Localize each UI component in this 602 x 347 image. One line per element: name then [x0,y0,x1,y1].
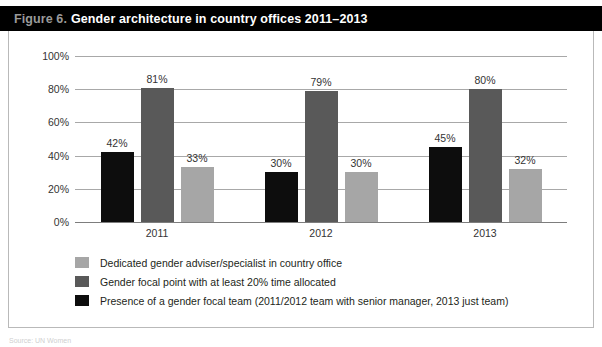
figure-title: Gender architecture in country offices 2… [71,12,368,26]
x-axis-line [75,222,567,223]
legend-swatch-focal-team [75,295,89,306]
bar-group-2013: 45%80%32% [403,56,567,222]
bar-value-label: 33% [186,152,207,164]
legend-item-label: Dedicated gender adviser/specialist in c… [100,257,342,269]
legend-swatch-focal-point [75,276,89,287]
bar[interactable]: 33% [181,167,214,222]
bar-value-label: 30% [270,157,291,169]
source-caption: Source: UN Women [9,337,71,344]
plot-area: 42%81%33%30%79%30%45%80%32% [75,56,567,222]
bar-value-label: 42% [106,137,127,149]
y-axis-tick-label: 60% [48,116,69,128]
legend-item-label: Presence of a gender focal team (2011/20… [100,295,508,307]
bar-value-label: 79% [310,76,331,88]
bar[interactable]: 30% [345,172,378,222]
legend-item-label: Gender focal point with at least 20% tim… [100,276,336,288]
bar[interactable]: 79% [305,91,338,222]
y-axis-tick-label: 20% [48,183,69,195]
legend-item[interactable]: Presence of a gender focal team (2011/20… [75,291,585,310]
bar-group-2012: 30%79%30% [239,56,403,222]
bar[interactable]: 42% [101,152,134,222]
bar-value-label: 81% [146,73,167,85]
figure-title-bar: Figure 6. Gender architecture in country… [0,6,602,31]
figure-container: Figure 6. Gender architecture in country… [0,0,602,347]
figure-number-label: Figure 6. [14,12,67,26]
bar[interactable]: 80% [469,89,502,222]
x-axis-tick-label: 2011 [146,227,169,239]
y-axis-tick-label: 100% [42,50,69,62]
legend-item[interactable]: Dedicated gender adviser/specialist in c… [75,253,585,272]
bar-value-label: 80% [474,74,495,86]
bar[interactable]: 45% [429,147,462,222]
legend-item[interactable]: Gender focal point with at least 20% tim… [75,272,585,291]
bar-value-label: 45% [434,132,455,144]
bar[interactable]: 32% [509,169,542,222]
x-axis-tick-label: 2012 [309,227,332,239]
y-axis-tick-label: 80% [48,83,69,95]
chart-legend: Dedicated gender adviser/specialist in c… [75,253,585,310]
bar-value-label: 32% [514,154,535,166]
legend-swatch-adviser [75,257,89,268]
y-axis: 0%20%40%60%80%100% [23,56,69,222]
figure-body: 0%20%40%60%80%100% 42%81%33%30%79%30%45%… [8,31,594,328]
y-axis-tick-label: 0% [54,216,69,228]
y-axis-tick-label: 40% [48,150,69,162]
x-axis-tick-label: 2013 [473,227,496,239]
bar-value-label: 30% [350,157,371,169]
bar-group-2011: 42%81%33% [75,56,239,222]
x-axis: 201120122013 [75,227,567,243]
bar[interactable]: 30% [265,172,298,222]
bar[interactable]: 81% [141,88,174,222]
